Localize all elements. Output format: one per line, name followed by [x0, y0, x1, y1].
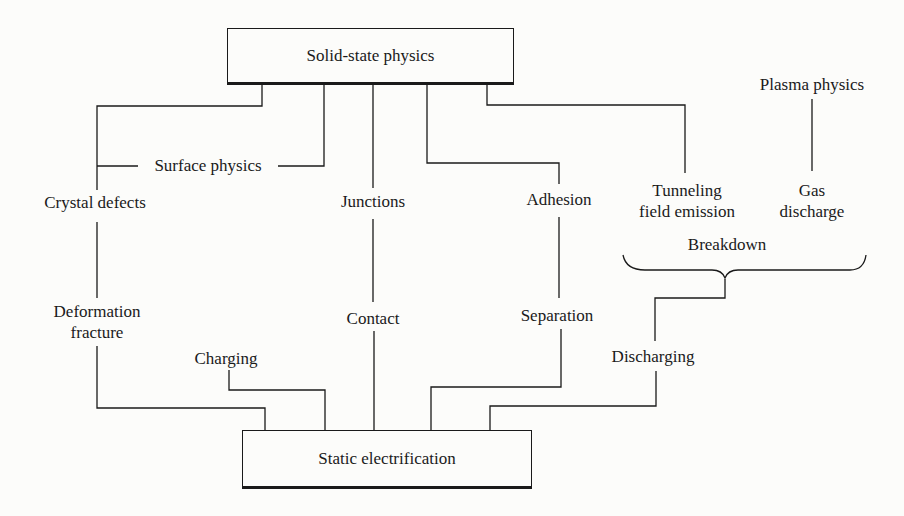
label-line: discharge: [780, 201, 845, 222]
node-breakdown: Breakdown: [688, 234, 766, 255]
edge-discharging-to-static: [490, 371, 656, 431]
label-line: Gas: [780, 180, 845, 201]
edge-separation-to-static: [431, 329, 561, 431]
node-adhesion: Adhesion: [526, 189, 591, 210]
edge-top-to-tunneling: [487, 85, 685, 173]
node-separation: Separation: [521, 305, 594, 326]
label-line: fracture: [54, 322, 141, 343]
node-tunneling-field-emission: Tunneling field emission: [639, 180, 735, 222]
node-static-electrification: Static electrification: [242, 430, 532, 489]
breakdown-brace: [623, 255, 866, 278]
edge-top-to-adhesion: [427, 85, 559, 184]
node-label: Solid-state physics: [307, 46, 435, 66]
node-contact: Contact: [347, 308, 400, 329]
edge-charging-to-static: [229, 370, 325, 431]
node-deformation-fracture: Deformation fracture: [54, 301, 141, 343]
node-discharging: Discharging: [612, 346, 695, 367]
node-gas-discharge: Gas discharge: [780, 180, 845, 222]
node-surface-physics: Surface physics: [154, 155, 261, 176]
node-plasma-physics: Plasma physics: [760, 74, 864, 95]
edge-top-to-surface: [278, 85, 324, 166]
node-label: Static electrification: [318, 449, 455, 469]
label-line: Tunneling: [639, 180, 735, 201]
label-line: Deformation: [54, 301, 141, 322]
edge-breakdown-to-discharging: [655, 279, 725, 341]
node-solid-state-physics: Solid-state physics: [227, 28, 514, 85]
label-line: field emission: [639, 201, 735, 222]
node-crystal-defects: Crystal defects: [44, 192, 146, 213]
node-junctions: Junctions: [341, 191, 405, 212]
node-charging: Charging: [195, 348, 258, 369]
